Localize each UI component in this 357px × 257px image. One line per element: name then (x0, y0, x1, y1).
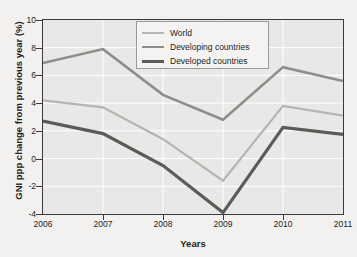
legend-item: World (142, 26, 263, 40)
x-tick-label: 2009 (203, 219, 243, 229)
y-tick-label: -4 (10, 209, 36, 219)
x-tick-label: 2010 (263, 219, 303, 229)
x-tick-mark (223, 215, 224, 220)
legend-label: Developing countries (170, 42, 249, 52)
series-line-developed-countries (43, 121, 343, 212)
series-line-world (43, 100, 343, 180)
y-tick-label: 4 (10, 98, 36, 108)
legend-item: Developing countries (142, 40, 263, 54)
chart-legend: WorldDeveloping countriesDeveloped count… (136, 21, 269, 69)
legend-swatch-icon (142, 32, 164, 34)
legend-swatch-icon (142, 46, 164, 48)
legend-label: World (170, 28, 192, 38)
y-tick-label: 10 (10, 15, 36, 25)
y-tick-label: 6 (10, 70, 36, 80)
y-tick-label: 8 (10, 43, 36, 53)
y-tick-label: 2 (10, 126, 36, 136)
y-tick-label: -2 (10, 181, 36, 191)
x-tick-mark (283, 215, 284, 220)
x-tick-label: 2011 (323, 219, 357, 229)
legend-label: Developed countries (170, 56, 248, 66)
x-tick-label: 2007 (83, 219, 123, 229)
x-tick-mark (163, 215, 164, 220)
legend-swatch-icon (142, 60, 164, 63)
y-tick-label: 0 (10, 154, 36, 164)
x-tick-label: 2006 (23, 219, 63, 229)
x-tick-label: 2008 (143, 219, 183, 229)
x-tick-mark (103, 215, 104, 220)
legend-item: Developed countries (142, 54, 263, 68)
